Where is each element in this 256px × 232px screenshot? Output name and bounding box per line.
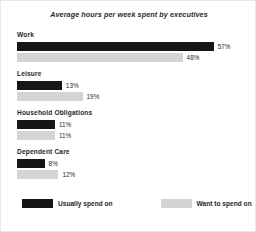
bar-row-want: 12% (17, 170, 243, 179)
bar-row-usual: 8% (17, 159, 243, 168)
bar-row-usual: 13% (17, 81, 243, 90)
bar-want[interactable] (17, 131, 55, 140)
bar-value-label: 11% (59, 131, 71, 140)
category-group-dependent-care: Dependent Care 8% 12% (17, 148, 243, 179)
legend-item-want-to-spend-on[interactable]: Want to spend on (161, 199, 252, 208)
bar-want[interactable] (17, 170, 58, 179)
category-group-leisure: Leisure 13% 19% (17, 70, 243, 101)
bar-usual[interactable] (17, 159, 45, 168)
bar-want[interactable] (17, 53, 183, 62)
bar-value-label: 8% (49, 159, 58, 168)
plot-area: Work 57% 48% Leisure 13% 19% Household O… (17, 31, 243, 187)
category-label: Work (17, 31, 243, 39)
chart-container: Average hours per week spent by executiv… (0, 0, 256, 232)
bar-usual[interactable] (17, 42, 214, 51)
category-label: Leisure (17, 70, 243, 78)
bar-value-label: 57% (218, 42, 231, 51)
bar-value-label: 48% (187, 53, 200, 62)
category-group-work: Work 57% 48% (17, 31, 243, 62)
bar-usual[interactable] (17, 120, 55, 129)
bar-value-label: 11% (59, 120, 71, 129)
bar-value-label: 12% (62, 170, 75, 179)
bar-value-label: 13% (66, 81, 79, 90)
legend-item-usually-spend-on[interactable]: Usually spend on (22, 199, 113, 208)
legend-label: Want to spend on (197, 199, 252, 208)
category-group-household-obligations: Household Obligations 11% 11% (17, 109, 243, 140)
chart-legend: Usually spend on Want to spend on (22, 199, 252, 208)
bar-row-want: 11% (17, 131, 243, 140)
bar-usual[interactable] (17, 81, 62, 90)
category-label: Dependent Care (17, 148, 243, 156)
bar-row-want: 48% (17, 53, 243, 62)
legend-swatch-icon (161, 199, 192, 208)
bar-value-label: 19% (87, 92, 100, 101)
category-label: Household Obligations (17, 109, 243, 117)
chart-title: Average hours per week spent by executiv… (1, 10, 256, 19)
bar-row-usual: 11% (17, 120, 243, 129)
bar-row-usual: 57% (17, 42, 243, 51)
legend-label: Usually spend on (58, 199, 113, 208)
legend-swatch-icon (22, 199, 53, 208)
bar-row-want: 19% (17, 92, 243, 101)
bar-want[interactable] (17, 92, 83, 101)
